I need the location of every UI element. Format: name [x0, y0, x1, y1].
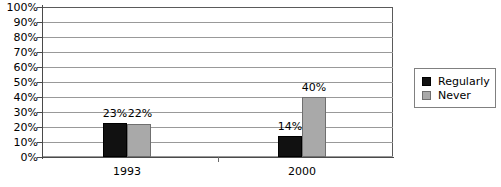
bar-1993-never[interactable] — [127, 124, 151, 157]
bar-label-2000-regularly: 14% — [273, 121, 307, 132]
gridline-30 — [43, 112, 393, 113]
gridline-20 — [43, 127, 393, 128]
y-tick-label-60: 60% — [0, 62, 38, 73]
y-tick-label-70: 70% — [0, 47, 38, 58]
y-axis: 100% 90% 80% 70% 60% 50% 40% 30% 20% 10%… — [0, 0, 38, 187]
y-tick-label-80: 80% — [0, 32, 38, 43]
plot-area: 23% 22% 14% 40% — [43, 7, 393, 157]
legend-item-never[interactable]: Never — [422, 88, 489, 102]
gridline-70 — [43, 52, 393, 53]
plot-border-top — [43, 7, 393, 8]
y-tick-label-10: 10% — [0, 137, 38, 148]
bar-1993-regularly[interactable] — [103, 123, 127, 158]
gridline-80 — [43, 37, 393, 38]
x-category-label-2000: 2000 — [288, 166, 316, 177]
gridline-90 — [43, 22, 393, 23]
y-tick-label-40: 40% — [0, 92, 38, 103]
bar-chart: 100% 90% 80% 70% 60% 50% 40% 30% 20% 10%… — [0, 0, 501, 187]
y-tick-label-90: 90% — [0, 17, 38, 28]
gridline-40 — [43, 97, 393, 98]
bar-2000-regularly[interactable] — [278, 136, 302, 157]
legend-label-never: Never — [438, 90, 471, 101]
y-tick-label-30: 30% — [0, 107, 38, 118]
x-axis-category-divider-tick — [218, 157, 219, 162]
y-tick-label-20: 20% — [0, 122, 38, 133]
legend-label-regularly: Regularly — [438, 76, 490, 87]
gridline-10 — [43, 142, 393, 143]
legend-item-regularly[interactable]: Regularly — [422, 74, 489, 88]
gridline-50 — [43, 82, 393, 83]
y-tick-label-100: 100% — [0, 2, 38, 13]
legend-swatch-icon-never — [422, 91, 431, 100]
x-category-label-1993: 1993 — [113, 166, 141, 177]
bar-label-1993-never: 22% — [123, 108, 157, 119]
y-tick-label-0: 0% — [0, 152, 38, 163]
gridline-0 — [43, 156, 393, 157]
bar-label-2000-never: 40% — [297, 82, 331, 93]
legend-swatch-icon-regularly — [422, 77, 431, 86]
chart-legend: Regularly Never — [414, 68, 496, 108]
y-tick-label-50: 50% — [0, 77, 38, 88]
gridline-60 — [43, 67, 393, 68]
